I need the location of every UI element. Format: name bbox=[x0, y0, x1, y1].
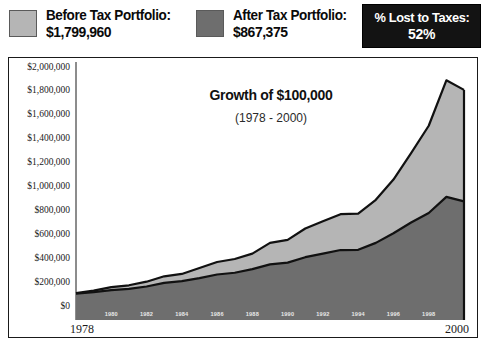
growth-area-chart: $2,000,000$1,800,000$1,600,000$1,400,000… bbox=[9, 58, 476, 336]
x-axis-tick-label: 1994 bbox=[352, 311, 366, 317]
y-axis-tick-label: $600,000 bbox=[34, 229, 70, 239]
y-axis-tick-label: $1,600,000 bbox=[27, 109, 70, 119]
y-axis-tick-label: $2,000,000 bbox=[27, 62, 70, 72]
y-axis-tick-label: $0 bbox=[61, 301, 71, 311]
chart-subtitle: (1978 - 2000) bbox=[235, 111, 307, 125]
y-axis-tick-labels: $2,000,000$1,800,000$1,600,000$1,400,000… bbox=[27, 62, 70, 311]
legend-label-before-tax: Before Tax Portfolio: bbox=[46, 8, 171, 23]
legend-swatch-before-tax bbox=[9, 10, 37, 37]
legend-value-before-tax: $1,799,960 bbox=[46, 24, 171, 39]
x-axis-tick-label: 1982 bbox=[140, 311, 153, 317]
x-axis-tick-label: 1988 bbox=[246, 311, 259, 317]
legend-item-before-tax: Before Tax Portfolio: $1,799,960 bbox=[9, 8, 180, 39]
legend-value-after-tax: $867,375 bbox=[233, 24, 347, 39]
legend-label-after-tax: After Tax Portfolio: bbox=[233, 8, 347, 23]
x-axis-tick-label: 1996 bbox=[387, 311, 400, 317]
y-axis-tick-label: $1,200,000 bbox=[27, 157, 70, 167]
x-axis-tick-label: 1986 bbox=[210, 311, 223, 317]
legend-swatch-after-tax bbox=[196, 10, 224, 37]
x-axis-start-label: 1978 bbox=[70, 322, 94, 336]
y-axis-tick-label: $1,800,000 bbox=[27, 85, 70, 95]
percent-lost-to-taxes-label: % Lost to Taxes: bbox=[374, 10, 469, 25]
percent-lost-to-taxes-value: 52% bbox=[408, 26, 435, 42]
y-axis-tick-label: $1,400,000 bbox=[27, 133, 70, 143]
legend-strip: Before Tax Portfolio: $1,799,960 After T… bbox=[0, 0, 484, 52]
y-axis-tick-label: $1,000,000 bbox=[27, 181, 70, 191]
x-axis-tick-label: 1984 bbox=[175, 311, 189, 317]
x-axis-tick-label: 1998 bbox=[422, 311, 435, 317]
percent-lost-to-taxes-box: % Lost to Taxes: 52% bbox=[362, 4, 481, 48]
legend-text-after-tax: After Tax Portfolio: $867,375 bbox=[233, 8, 355, 39]
x-axis-end-label: 2000 bbox=[445, 322, 469, 336]
chart-title: Growth of $100,000 bbox=[210, 87, 333, 103]
y-axis-tick-label: $200,000 bbox=[34, 277, 70, 287]
y-axis-tick-label: $400,000 bbox=[34, 253, 70, 263]
chart-panel: $2,000,000$1,800,000$1,600,000$1,400,000… bbox=[8, 57, 478, 338]
x-axis-tick-label: 1990 bbox=[281, 311, 294, 317]
legend-item-after-tax: After Tax Portfolio: $867,375 bbox=[196, 8, 355, 39]
x-axis-tick-label: 1980 bbox=[105, 311, 118, 317]
legend-text-before-tax: Before Tax Portfolio: $1,799,960 bbox=[46, 8, 180, 39]
x-axis-tick-label: 1992 bbox=[316, 311, 329, 317]
y-axis-tick-label: $800,000 bbox=[34, 205, 70, 215]
